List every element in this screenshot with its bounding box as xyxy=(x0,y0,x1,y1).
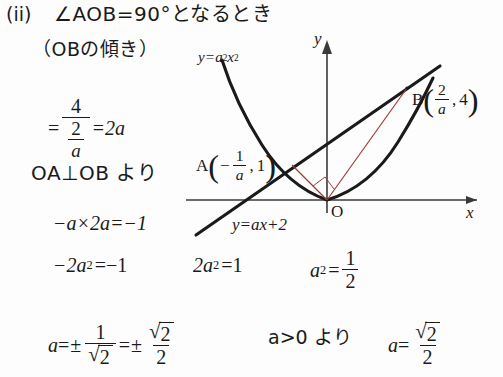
equation-line-4-numerator: 1 xyxy=(342,248,358,269)
final-solve-line: a = ± 1 √ 2 = ± √ 2 xyxy=(48,322,180,367)
equation-line-2: −2a 2 =−1 xyxy=(53,255,127,275)
equation-line-3-lhs: 2a xyxy=(193,255,213,275)
point-b-x-fraction: 2 a xyxy=(435,82,449,116)
final-equals-2: = xyxy=(119,335,130,355)
point-b-dot xyxy=(405,86,408,89)
point-b-label: B ( 2 a , 4 ) xyxy=(412,82,478,116)
x-axis-label: x xyxy=(466,204,474,221)
final-variable: a xyxy=(48,335,58,355)
sqrt-radical-answer: √ xyxy=(415,321,427,343)
y-axis xyxy=(322,40,332,213)
final-fraction-2: √ 2 2 xyxy=(146,322,177,367)
y-axis-label: y xyxy=(314,30,322,47)
slope-equation: = 4 2 a = 2a xyxy=(48,96,125,160)
equation-line-4-fraction: 1 2 xyxy=(342,248,358,291)
equation-line-3: 2a 2 =1 xyxy=(193,255,242,275)
parabola-label-a: a xyxy=(215,50,223,65)
equation-line-4-lhs: a xyxy=(310,260,320,280)
point-b-y: 4 xyxy=(459,91,468,108)
slope-label: （OBの傾き） xyxy=(32,40,159,59)
point-a-x-fraction: 1 a xyxy=(233,148,247,182)
equation-line-1: −a×2a=−1 xyxy=(53,213,147,233)
equation-line-4-equals: = xyxy=(328,260,339,280)
final-plusminus-2: ± xyxy=(131,335,142,355)
positive-condition: a>0 より xyxy=(268,328,352,347)
slope-eq-sign: = xyxy=(48,118,59,138)
segment-oa xyxy=(292,165,327,200)
final-fraction-1: 1 √ 2 xyxy=(85,322,116,367)
right-angle-marker xyxy=(313,177,334,189)
point-a-name: A xyxy=(196,157,208,174)
point-a-label: A ( − 1 a , 1 ) xyxy=(196,148,276,182)
point-a-y: 1 xyxy=(257,157,266,174)
point-a-x-numerator: 1 xyxy=(233,148,247,165)
point-b-x-denominator: a xyxy=(435,99,449,117)
final-fraction-1-denominator: √ 2 xyxy=(85,343,116,367)
point-b-x-numerator: 2 xyxy=(435,82,449,99)
answer-variable: a xyxy=(388,335,398,355)
point-b-comma: , xyxy=(452,91,456,108)
equation-line-2-rhs: =−1 xyxy=(95,255,128,275)
point-a-comma: , xyxy=(249,157,253,174)
point-a-open-paren: ( xyxy=(208,156,219,176)
slope-inner-numerator: 2 xyxy=(68,119,84,139)
slope-outer-fraction: 4 2 a xyxy=(62,96,90,160)
origin-label: O xyxy=(331,203,343,220)
equation-line-2-lhs: −2a xyxy=(53,255,87,275)
final-fraction-2-numerator: √ 2 xyxy=(146,322,177,345)
parabola-label-equals: = xyxy=(206,50,214,65)
answer-equals: = xyxy=(398,335,409,355)
final-fraction-1-numerator: 1 xyxy=(93,322,109,343)
point-a-close-paren: ) xyxy=(265,156,276,176)
slope-outer-numerator: 4 xyxy=(68,96,84,117)
answer-fraction-numerator: √ 2 xyxy=(412,322,443,345)
perpendicular-statement: OA⊥OB より xyxy=(31,163,157,183)
segment-ob xyxy=(327,88,407,200)
point-a-x-denominator: a xyxy=(233,165,247,183)
slope-result-sign: = xyxy=(93,118,104,138)
slope-result: 2a xyxy=(105,118,125,138)
equation-line-4: a 2 = 1 2 xyxy=(310,248,361,291)
sqrt-radical-1: √ xyxy=(88,344,100,366)
parabola-label-x: x xyxy=(227,50,234,65)
equation-line-4-denominator: 2 xyxy=(342,269,358,291)
final-answer: a = √ 2 2 xyxy=(388,322,446,367)
parabola-label-lhs: y xyxy=(198,50,205,65)
problem-number: (ii) xyxy=(6,5,31,24)
point-b-name: B xyxy=(412,91,423,108)
sqrt-radical-2: √ xyxy=(149,321,161,343)
final-fraction-2-denominator: 2 xyxy=(153,345,169,367)
final-plusminus-1: ± xyxy=(70,335,81,355)
line-label: y=ax+2 xyxy=(232,216,287,233)
equation-line-3-rhs: =1 xyxy=(221,255,242,275)
point-b-close-paren: ) xyxy=(468,90,479,110)
point-a-sign: − xyxy=(220,157,230,174)
slope-outer-denominator: 2 a xyxy=(62,117,90,160)
worked-solution-page: (ii) ∠AOB=90°となるとき （OBの傾き） = 4 2 a = 2a … xyxy=(0,0,503,377)
slope-inner-fraction: 2 a xyxy=(68,119,84,160)
answer-fraction-denominator: 2 xyxy=(420,345,436,367)
point-b-open-paren: ( xyxy=(423,90,434,110)
final-equals-1: = xyxy=(58,335,69,355)
parabola-label: y = a 2 x 2 xyxy=(198,50,239,65)
problem-condition: ∠AOB=90°となるとき xyxy=(54,4,272,24)
slope-inner-denominator: a xyxy=(68,139,84,160)
answer-fraction: √ 2 2 xyxy=(412,322,443,367)
